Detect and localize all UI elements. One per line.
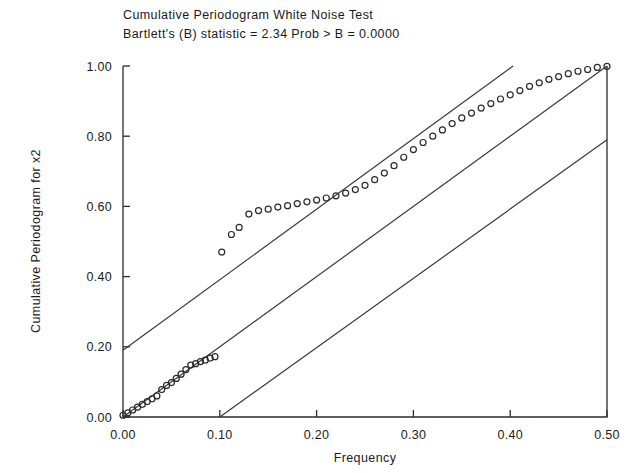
y-tick-label: 0.60 [86, 200, 112, 214]
x-tick-label: 0.20 [304, 428, 330, 442]
chart-title: Cumulative Periodogram White Noise Test [123, 8, 373, 22]
chart-canvas: Cumulative Periodogram White Noise Test … [0, 0, 641, 473]
y-axis-title: Cumulative Periodogram for x2 [29, 149, 43, 333]
x-tick-label: 0.10 [207, 428, 233, 442]
x-tick-label: 0.30 [401, 428, 427, 442]
x-axis-title: Frequency [334, 451, 397, 465]
y-tick-label: 0.80 [86, 130, 112, 144]
x-tick-label: 0.00 [110, 428, 136, 442]
chart-subtitle: Bartlett's (B) statistic = 2.34 Prob > B… [123, 27, 400, 41]
x-tick-label: 0.40 [497, 428, 523, 442]
x-tick-label: 0.50 [594, 428, 620, 442]
cumulative-periodogram-chart: Cumulative Periodogram White Noise Test … [0, 0, 641, 473]
y-tick-label: 1.00 [86, 60, 112, 74]
y-tick-label: 0.00 [86, 411, 112, 425]
y-tick-label: 0.20 [86, 340, 112, 354]
y-tick-label: 0.40 [86, 270, 112, 284]
